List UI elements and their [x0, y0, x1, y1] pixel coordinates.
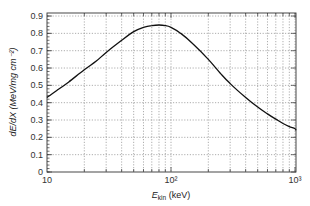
y-tick-label: 0.3	[30, 115, 43, 125]
x-tick-label: 10²	[164, 175, 177, 185]
y-tick-label: 0.1	[30, 150, 43, 160]
x-axis-label: Ekin (keV)	[152, 190, 190, 201]
y-tick-label: 0.4	[30, 98, 43, 108]
y-tick-label: 0.2	[30, 132, 43, 142]
y-axis-label: dE/dX (MeV/mg cm⁻²)	[8, 47, 18, 136]
y-tick-label: 0.7	[30, 46, 43, 56]
x-tick-label: 10³	[288, 175, 301, 185]
x-tick-labels: 1010²10³	[42, 175, 302, 185]
y-tick-label: 0.8	[30, 28, 43, 38]
grid-lines	[47, 13, 296, 172]
y-tick-labels: 00.10.20.30.40.50.60.70.80.9	[30, 11, 43, 177]
y-tick-label: 0.9	[30, 11, 43, 21]
x-tick-label: 10	[42, 175, 52, 185]
chart: 00.10.20.30.40.50.60.70.80.9 1010²10³ dE…	[0, 0, 310, 206]
y-tick-label: 0.5	[30, 80, 43, 90]
y-tick-label: 0.6	[30, 63, 43, 73]
